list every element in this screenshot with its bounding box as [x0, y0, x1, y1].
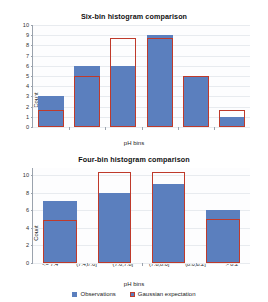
bar-gaussian-expectation [110, 38, 136, 127]
bar-gaussian-expectation [219, 110, 245, 127]
bar-gaussian-expectation [152, 172, 186, 263]
y-axis-tick-label: 8 [26, 190, 29, 196]
bar-slot [142, 168, 196, 263]
bar-slot [87, 168, 141, 263]
plot-area-four-bin: Count 0246810 [32, 168, 250, 264]
y-axis-tick-label: 3 [26, 93, 29, 99]
bar-gaussian-expectation [38, 110, 64, 127]
x-axis-tick-mark [178, 127, 179, 130]
y-axis-tick-label: 10 [23, 172, 29, 178]
y-axis-tick-label: 9 [26, 32, 29, 38]
legend-item-expectation: Gaussian expectation [130, 291, 196, 297]
y-axis-tick-label: 5 [26, 73, 29, 79]
bar-gaussian-expectation [206, 219, 240, 263]
bar-slot [178, 25, 214, 127]
plot-area-six-bin: Count 012345678910 [32, 25, 250, 128]
y-axis-tick-mark [31, 127, 34, 128]
x-axis-tick-mark [87, 263, 88, 266]
six-bin-chart-panel: Six-bin histogram comparison Count 01234… [0, 0, 268, 150]
bar-group-six-bin [33, 25, 250, 127]
y-axis-tick-mark [31, 263, 34, 264]
x-axis-label-six-bin: pH bins [0, 140, 268, 146]
bar-gaussian-expectation [183, 76, 209, 127]
bar-slot [33, 168, 87, 263]
legend-swatch-observations [72, 292, 77, 297]
y-axis-tick-label: 2 [26, 104, 29, 110]
y-axis-tick-label: 4 [26, 225, 29, 231]
y-axis-tick-label: 7 [26, 53, 29, 59]
x-axis-tick-mark [196, 263, 197, 266]
x-axis-tick-mark [142, 127, 143, 130]
legend-label-observations: Observations [80, 291, 115, 297]
x-axis-tick-mark [142, 263, 143, 266]
y-axis-tick-label: 0 [26, 124, 29, 130]
four-bin-chart-panel: Four-bin histogram comparison Count 0246… [0, 150, 268, 302]
y-axis-tick-label: 0 [26, 260, 29, 266]
bar-slot [69, 25, 105, 127]
bar-slot [105, 25, 141, 127]
histogram-comparison-figure: Six-bin histogram comparison Count 01234… [0, 0, 268, 302]
y-axis-tick-label: 10 [23, 22, 29, 28]
bar-slot [214, 25, 250, 127]
bar-slot [33, 25, 69, 127]
bar-gaussian-expectation [74, 76, 100, 127]
legend-item-observations: Observations [72, 291, 115, 297]
y-axis-tick-label: 6 [26, 63, 29, 69]
chart-title-six-bin: Six-bin histogram comparison [0, 12, 268, 21]
bar-group-four-bin [33, 168, 250, 263]
legend-swatch-expectation [130, 292, 135, 297]
chart-legend: Observations Gaussian expectation [0, 291, 268, 297]
bar-gaussian-expectation [43, 220, 77, 263]
y-axis-tick-label: 2 [26, 242, 29, 248]
x-axis-tick-mark [214, 127, 215, 130]
bar-slot [142, 25, 178, 127]
chart-title-four-bin: Four-bin histogram comparison [0, 155, 268, 164]
y-axis-tick-label: 6 [26, 207, 29, 213]
y-axis-tick-label: 4 [26, 83, 29, 89]
y-axis-tick-label: 1 [26, 114, 29, 120]
x-axis-tick-mark [69, 127, 70, 130]
x-axis-label-four-bin: pH bins [0, 281, 268, 287]
x-axis-tick-mark [105, 127, 106, 130]
bar-gaussian-expectation [147, 38, 173, 127]
bar-slot [196, 168, 250, 263]
y-axis-tick-label: 8 [26, 42, 29, 48]
legend-label-expectation: Gaussian expectation [138, 291, 196, 297]
bar-gaussian-expectation [98, 172, 132, 263]
